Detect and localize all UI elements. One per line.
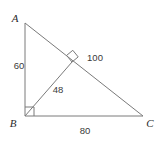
measure-label-altitude-BD: 48	[53, 84, 64, 95]
segment-altitude-BD	[25, 62, 72, 116]
vertex-label-A: A	[11, 12, 19, 24]
triangle-figure-svg: A B C 60 100 48 80	[0, 0, 164, 142]
segment-hypotenuse-AC	[25, 23, 143, 116]
vertex-label-C: C	[146, 117, 154, 129]
measure-label-leg-BC: 80	[80, 125, 91, 136]
geometry-diagram: A B C 60 100 48 80	[0, 0, 164, 142]
measure-label-hypotenuse-AC: 100	[87, 52, 103, 63]
vertex-label-B: B	[10, 117, 17, 129]
measure-label-leg-AB: 60	[14, 60, 25, 71]
